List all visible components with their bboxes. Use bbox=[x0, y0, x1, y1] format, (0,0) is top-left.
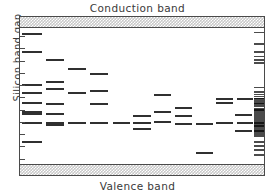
defect-level-line bbox=[22, 111, 42, 113]
defect-level-line bbox=[133, 122, 150, 124]
plot-area bbox=[19, 16, 265, 176]
continuum-level-line bbox=[254, 56, 264, 58]
y-axis-tick bbox=[20, 146, 25, 147]
defect-level-line bbox=[46, 81, 64, 83]
valence-band-label: Valence band bbox=[0, 180, 275, 192]
defect-level-line bbox=[133, 115, 150, 117]
valence-band-region bbox=[20, 164, 264, 175]
defect-level-line bbox=[90, 90, 108, 92]
defect-level-line bbox=[216, 122, 233, 124]
defect-level-line bbox=[133, 128, 150, 130]
defect-level-line bbox=[22, 141, 42, 143]
continuum-level-line bbox=[254, 51, 264, 53]
defect-level-line bbox=[90, 73, 108, 75]
defect-level-line bbox=[68, 68, 86, 70]
defect-level-line bbox=[196, 152, 213, 154]
conduction-band-region bbox=[20, 17, 264, 28]
continuum-level-line bbox=[254, 43, 264, 45]
continuum-level-line bbox=[254, 91, 264, 93]
defect-level-line bbox=[175, 115, 192, 117]
defect-level-line bbox=[154, 94, 171, 96]
defect-level-line bbox=[22, 51, 42, 53]
continuum-level-line bbox=[254, 149, 264, 151]
defect-level-line bbox=[46, 88, 64, 90]
y-axis-tick bbox=[20, 134, 25, 135]
defect-level-line bbox=[90, 103, 108, 105]
defect-level-line bbox=[235, 130, 252, 132]
defect-level-line bbox=[46, 59, 64, 61]
defect-level-line bbox=[216, 98, 233, 100]
continuum-level-line bbox=[254, 145, 264, 147]
y-axis-tick bbox=[20, 110, 25, 111]
defect-level-line bbox=[22, 102, 42, 104]
defect-level-line bbox=[46, 103, 64, 105]
defect-level-line bbox=[90, 122, 108, 124]
defect-level-line bbox=[235, 114, 252, 116]
y-axis-tick bbox=[20, 48, 25, 49]
y-axis-tick bbox=[20, 36, 25, 37]
conduction-band-label: Conduction band bbox=[0, 2, 275, 14]
defect-level-line bbox=[22, 33, 42, 35]
defect-level-line bbox=[113, 122, 130, 124]
defect-level-line bbox=[237, 98, 253, 100]
figure-root: Conduction band Silicon band gap Valence… bbox=[0, 0, 275, 193]
defect-level-line bbox=[216, 102, 233, 104]
defect-level-line bbox=[237, 122, 253, 124]
defect-level-line bbox=[154, 111, 171, 113]
y-axis-tick bbox=[20, 85, 25, 86]
continuum-level-line bbox=[254, 32, 264, 34]
defect-level-line bbox=[22, 113, 42, 115]
defect-level-line bbox=[22, 92, 42, 94]
continuum-level-line bbox=[254, 141, 264, 143]
defect-levels-container bbox=[20, 28, 264, 164]
continuum-level-line bbox=[254, 59, 264, 61]
defect-level-line bbox=[175, 123, 192, 125]
y-axis-tick bbox=[20, 73, 25, 74]
defect-level-line bbox=[68, 92, 86, 94]
defect-level-line bbox=[196, 123, 213, 125]
defect-level-line bbox=[46, 113, 64, 115]
continuum-level-line bbox=[254, 87, 264, 89]
continuum-level-line bbox=[254, 154, 264, 156]
continuum-level-line bbox=[254, 62, 264, 64]
defect-level-line bbox=[154, 121, 171, 123]
defect-level-line bbox=[175, 107, 192, 109]
y-axis-tick bbox=[20, 61, 25, 62]
defect-level-line bbox=[68, 122, 86, 124]
defect-level-line bbox=[46, 124, 64, 126]
defect-level-line bbox=[22, 84, 42, 86]
y-axis-tick bbox=[20, 159, 25, 160]
y-axis-tick bbox=[20, 97, 25, 98]
defect-level-line bbox=[22, 122, 42, 124]
y-axis-tick bbox=[20, 122, 25, 123]
continuum-level-line bbox=[254, 135, 264, 137]
